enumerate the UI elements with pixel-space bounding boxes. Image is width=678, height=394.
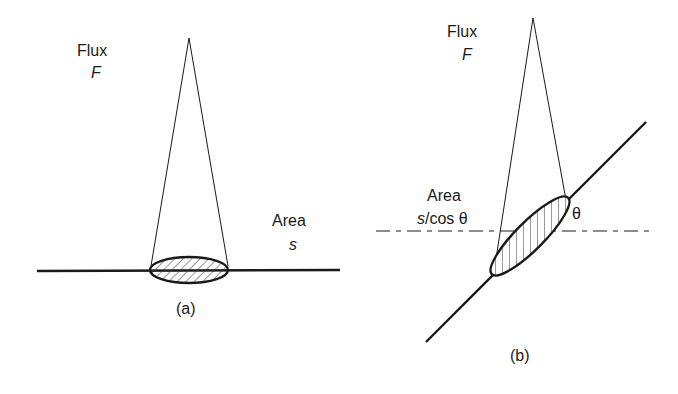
flux-symbol-a: F (91, 64, 102, 81)
panel-a: Flux F Area s (a) (37, 38, 340, 317)
flux-area-diagram: Flux F Area s (a) Flux F Area s/cos θ θ (0, 0, 678, 394)
caption-a: (a) (176, 300, 196, 317)
panel-b: Flux F Area s/cos θ θ (b) (376, 18, 650, 364)
flux-label-b: Flux (447, 23, 477, 40)
area-formula-b: s/cos θ (417, 210, 468, 227)
cone-right-edge-a (189, 38, 228, 266)
cone-left-edge-a (151, 38, 189, 266)
flux-symbol-b: F (462, 46, 473, 63)
angle-symbol-theta: θ (572, 205, 581, 222)
area-ellipse-a (150, 257, 228, 283)
area-symbol-cos-b: /cos θ (425, 210, 468, 227)
flux-label-a: Flux (77, 42, 107, 59)
area-symbol-a: s (289, 236, 297, 253)
caption-b: (b) (510, 347, 530, 364)
area-label-b: Area (427, 187, 461, 204)
area-label-a: Area (272, 212, 306, 229)
cone-right-edge-b (533, 18, 566, 200)
area-symbol-s-b: s (417, 210, 425, 227)
